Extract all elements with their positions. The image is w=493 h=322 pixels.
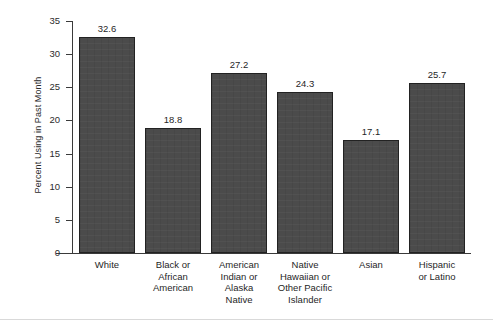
y-tick-10	[66, 187, 73, 188]
x-category-label-line: Islander	[268, 294, 342, 306]
x-category-label: AmericanIndian orAlaskaNative	[202, 259, 276, 305]
y-tick-label-5: 5	[16, 214, 60, 225]
x-category-label-line: Hispanic	[400, 259, 474, 271]
y-tick-5	[66, 220, 73, 221]
y-tick-30	[66, 54, 73, 55]
y-tick-label-10: 10	[16, 181, 60, 192]
y-tick-15	[66, 154, 73, 155]
y-tick-label-30: 30	[16, 48, 60, 59]
y-tick-label-0: 0	[16, 247, 60, 258]
bar	[211, 73, 267, 253]
x-category-label-line: Indian or	[202, 271, 276, 283]
bar-value-label: 32.6	[79, 23, 135, 34]
y-tick-0	[66, 253, 73, 254]
y-axis-line	[72, 21, 73, 253]
x-category-label-line: Hawaiian or	[268, 271, 342, 283]
x-category-label-line: Black or	[136, 259, 210, 271]
bar-value-label: 27.2	[211, 59, 267, 70]
y-tick-label-25: 25	[16, 81, 60, 92]
y-axis-title: Percent Using in Past Month	[33, 35, 43, 235]
x-category-label: NativeHawaiian orOther PacificIslander	[268, 259, 342, 305]
x-category-label-line: or Latino	[400, 271, 474, 283]
bar	[79, 37, 135, 253]
y-tick-35	[66, 21, 73, 22]
bar	[277, 92, 333, 253]
x-category-label-line: Other Pacific	[268, 282, 342, 294]
bar-value-label: 25.7	[409, 69, 465, 80]
y-tick-20	[66, 120, 73, 121]
x-category-label-line: Asian	[334, 259, 408, 271]
x-axis-line	[56, 253, 471, 254]
x-category-label-line: Native	[202, 294, 276, 306]
bar-chart: Percent Using in Past Month 051015202530…	[0, 0, 493, 322]
y-tick-label-20: 20	[16, 114, 60, 125]
x-category-label-line: Native	[268, 259, 342, 271]
bar-value-label: 24.3	[277, 78, 333, 89]
x-category-label-line: African	[136, 271, 210, 283]
x-category-label-line: American	[202, 259, 276, 271]
bar	[145, 128, 201, 253]
bar	[343, 140, 399, 253]
y-tick-label-15: 15	[16, 148, 60, 159]
x-category-label-line: Alaska	[202, 282, 276, 294]
y-tick-25	[66, 87, 73, 88]
x-category-label: White	[70, 259, 144, 271]
bar	[409, 83, 465, 253]
x-category-label-line: American	[136, 282, 210, 294]
bar-value-label: 18.8	[145, 114, 201, 125]
x-category-label: Hispanicor Latino	[400, 259, 474, 282]
page-edge-artifact	[0, 319, 493, 320]
x-category-label: Asian	[334, 259, 408, 271]
x-category-label: Black orAfricanAmerican	[136, 259, 210, 294]
bar-value-label: 17.1	[343, 126, 399, 137]
y-tick-label-35: 35	[16, 15, 60, 26]
x-category-label-line: White	[70, 259, 144, 271]
